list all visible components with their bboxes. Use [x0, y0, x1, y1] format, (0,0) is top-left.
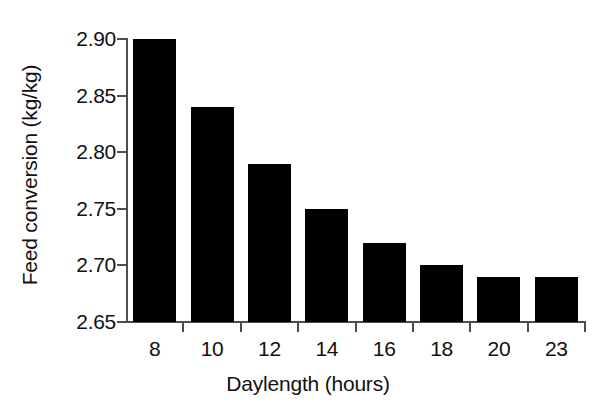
bar: [248, 164, 291, 322]
y-axis-tick-label: 2.85: [42, 85, 116, 106]
x-axis-tick-mark: [182, 323, 184, 332]
x-axis-tick-label: 20: [470, 338, 527, 359]
bar-chart-figure: Feed conversion (kg/kg) 2.652.702.752.80…: [0, 0, 616, 419]
bar: [305, 209, 348, 322]
x-axis-tick-label: 23: [528, 338, 585, 359]
plot-area: [126, 39, 585, 322]
x-axis-tick-mark: [527, 323, 529, 332]
y-axis-tick-mark: [117, 208, 126, 210]
y-axis-tick-label: 2.80: [42, 141, 116, 162]
y-axis-tick-mark: [117, 321, 126, 323]
y-axis-tick-labels: 2.652.702.752.802.852.90: [40, 0, 116, 419]
y-axis-tick-label: 2.70: [42, 254, 116, 275]
x-axis-tick-mark: [355, 323, 357, 332]
y-axis-tick-label: 2.75: [42, 198, 116, 219]
x-axis-tick-mark: [412, 323, 414, 332]
y-axis-tick-mark: [117, 151, 126, 153]
bar: [535, 277, 578, 322]
bar: [420, 265, 463, 322]
x-axis-tick-mark: [469, 323, 471, 332]
bar: [191, 107, 234, 322]
bar: [363, 243, 406, 322]
x-axis-tick-label: 16: [356, 338, 413, 359]
x-axis-tick-label: 12: [241, 338, 298, 359]
x-axis-tick-mark: [297, 323, 299, 332]
x-axis-tick-mark: [240, 323, 242, 332]
y-axis-tick-mark: [117, 38, 126, 40]
y-axis-title: Feed conversion (kg/kg): [18, 15, 42, 335]
x-axis-tick-label: 14: [298, 338, 355, 359]
x-axis-tick-mark: [584, 323, 586, 332]
x-axis-tick-label: 18: [413, 338, 470, 359]
bar: [133, 39, 176, 322]
x-axis-tick-label: 8: [126, 338, 183, 359]
x-axis-tick-label: 10: [183, 338, 240, 359]
y-axis-tick-mark: [117, 95, 126, 97]
y-axis-tick-mark: [117, 264, 126, 266]
y-axis-tick-label: 2.90: [42, 28, 116, 49]
x-axis-title: Daylength (hours): [0, 372, 616, 396]
bar: [477, 277, 520, 322]
y-axis-tick-label: 2.65: [42, 311, 116, 332]
